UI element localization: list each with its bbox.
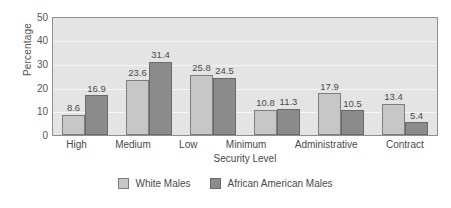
bar[interactable] [382, 104, 405, 135]
bar[interactable] [149, 62, 172, 135]
bar-value-label: 24.5 [215, 66, 234, 76]
bar-item[interactable]: 24.5 [213, 18, 236, 135]
bar-item[interactable]: 10.5 [341, 18, 364, 135]
y-tick-label: 50 [26, 13, 48, 23]
bar-item[interactable]: 31.4 [149, 18, 172, 135]
y-tick-label: 30 [26, 60, 48, 70]
bar-value-label: 10.8 [256, 98, 275, 108]
plot-area: 8.616.923.631.425.824.510.811.317.910.51… [52, 17, 438, 136]
bar-value-label: 5.4 [410, 111, 423, 121]
y-tick-label: 0 [26, 131, 48, 141]
bar[interactable] [190, 75, 213, 135]
x-tick-label: Minimum [226, 139, 267, 153]
bar-item[interactable]: 23.6 [126, 18, 149, 135]
bar-value-label: 11.3 [280, 97, 298, 107]
x-axis-title: Security Level [52, 153, 438, 164]
y-tick-label: 40 [26, 36, 48, 46]
bar[interactable] [62, 115, 85, 135]
bar-group: 25.824.5 [190, 18, 236, 135]
bar-item[interactable]: 10.8 [254, 18, 277, 135]
bar[interactable] [341, 110, 364, 135]
legend-label: African American Males [227, 178, 332, 189]
bar-group: 10.811.3 [254, 18, 300, 135]
y-tick-label: 20 [26, 84, 48, 94]
x-axis-tick-labels: HighMediumLowMinimumAdministrativeContra… [52, 139, 438, 153]
legend-swatch-icon [118, 178, 129, 189]
bar-value-label: 25.8 [192, 63, 211, 73]
x-tick-label: Contract [386, 139, 424, 153]
legend: White Males African American Males [0, 174, 451, 192]
bar-value-label: 16.9 [87, 84, 106, 94]
bar-value-label: 23.6 [128, 68, 147, 78]
bar-item[interactable]: 11.3 [277, 18, 300, 135]
bar[interactable] [405, 122, 428, 135]
bar[interactable] [277, 109, 300, 135]
bar[interactable] [318, 93, 341, 135]
bar[interactable] [213, 78, 236, 135]
x-tick-label: High [66, 139, 87, 153]
bar-value-label: 13.4 [384, 92, 403, 102]
legend-swatch-icon [210, 178, 221, 189]
bar-group: 23.631.4 [126, 18, 172, 135]
bar-series-container: 8.616.923.631.425.824.510.811.317.910.51… [53, 18, 437, 135]
bar-chart: Percentage 50 40 30 20 10 0 8.616.923.63… [0, 0, 451, 208]
bar-item[interactable]: 8.6 [62, 18, 85, 135]
x-tick-label: Low [179, 139, 197, 153]
bar-item[interactable]: 16.9 [85, 18, 108, 135]
bar-item[interactable]: 5.4 [405, 18, 428, 135]
bar-value-label: 8.6 [67, 103, 80, 113]
bar-item[interactable]: 17.9 [318, 18, 341, 135]
bar-group: 13.45.4 [382, 18, 428, 135]
legend-item-african-american-males: African American Males [210, 178, 332, 189]
bar-value-label: 10.5 [343, 99, 362, 109]
bar-item[interactable]: 13.4 [382, 18, 405, 135]
bar[interactable] [254, 110, 277, 135]
bar-group: 17.910.5 [318, 18, 364, 135]
x-tick-label: Medium [115, 139, 151, 153]
legend-label: White Males [135, 178, 190, 189]
bar[interactable] [85, 95, 108, 135]
bar[interactable] [126, 80, 149, 135]
x-tick-label: Administrative [295, 139, 358, 153]
bar-item[interactable]: 25.8 [190, 18, 213, 135]
legend-item-white-males: White Males [118, 178, 190, 189]
y-tick-label: 10 [26, 107, 48, 117]
bar-group: 8.616.9 [62, 18, 108, 135]
bar-value-label: 17.9 [320, 82, 339, 92]
bar-value-label: 31.4 [151, 50, 170, 60]
